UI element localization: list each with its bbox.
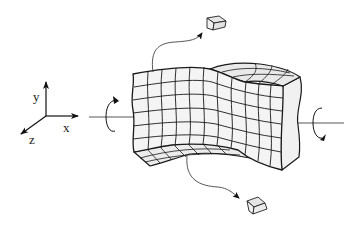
deformed-block [132, 63, 301, 170]
top-element-extraction [152, 16, 226, 72]
x-axis-label: x [63, 120, 70, 135]
coordinate-axes: y x z [21, 82, 78, 147]
right-torque [293, 108, 344, 141]
bottom-element-extraction [187, 156, 267, 214]
top-extracted-cube [207, 16, 226, 30]
torsion-diagram: y x z [0, 0, 359, 226]
left-torque [89, 96, 134, 131]
left-twist-arrow-icon [106, 100, 117, 131]
top-extraction-arrow [152, 33, 202, 72]
z-axis-label: z [29, 132, 35, 147]
bottom-extraction-arrow [187, 156, 239, 198]
bottom-extracted-cube [247, 197, 267, 214]
y-axis-label: y [33, 89, 40, 104]
